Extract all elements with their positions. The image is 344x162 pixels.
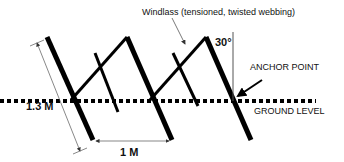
windlass-label: Windlass (tensioned, twisted webbing) bbox=[142, 7, 295, 17]
anchor-point-label: ANCHOR POINT bbox=[250, 62, 320, 72]
stake-2 bbox=[127, 37, 172, 140]
windlass-pointer bbox=[172, 18, 185, 44]
post-length-label: 1.3 M bbox=[26, 100, 54, 112]
post-spacing-label: 1 M bbox=[120, 146, 138, 158]
ground-level-label: GROUND LEVEL bbox=[254, 106, 325, 116]
anchor-diagram: 30° Windlass (tensioned, twisted webbing… bbox=[0, 0, 344, 162]
windlass-line-1 bbox=[71, 37, 127, 100]
stake-3 bbox=[206, 37, 251, 140]
post-length-tick-top bbox=[30, 40, 44, 46]
angle-label: 30° bbox=[215, 36, 232, 48]
post-length-tick-bottom bbox=[73, 148, 87, 154]
anchor-point-arrow bbox=[238, 80, 262, 96]
windlass-line-2 bbox=[150, 37, 206, 100]
stake-1 bbox=[47, 37, 93, 140]
